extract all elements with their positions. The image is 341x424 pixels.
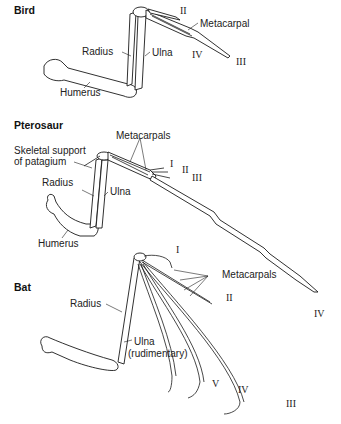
bird-metacarpal-label: Metacarpal [200,18,249,29]
bird-panel-title: Bird [14,4,35,16]
bat-digit-i-label: I [176,244,179,255]
bird-digit-iii-label: III [236,56,246,67]
pterosaur-metacarpals-label: Metacarpals [116,130,170,141]
bat-wing-skeleton [41,253,244,414]
pterosaur-digit-iii-label: III [192,172,202,183]
bat-digit-ii [142,260,212,304]
pterosaur-skeletal-support-label-line2: of patagium [14,156,66,167]
pterosaur-ulna-label: Ulna [110,186,131,197]
bat-digit-iv-label: IV [238,384,249,395]
bat-humerus [41,337,118,371]
pterosaur-skeletal-support-label-line1: Skeletal support [14,145,86,156]
bird-ulna-label: Ulna [152,47,173,58]
bat-panel-title: Bat [14,281,31,293]
bird-humerus-label: Humerus [60,87,101,98]
bird-radius-label: Radius [82,46,113,57]
bird-digit-ii-label: II [180,5,187,16]
pterosaur-digit-i-label: I [170,158,173,169]
pterosaur-radius-label: Radius [42,177,73,188]
pterosaur-digit-ii-label: II [182,164,189,175]
bat-digit-iii-label: III [286,398,296,409]
leader-lines [62,23,208,342]
bird-ulna [135,14,146,90]
bat-digit-ii-label: II [226,292,233,303]
pterosaur-humerus [46,194,98,236]
bat-ulna-label-line2: (rudimentary) [128,348,187,359]
pterosaur-digit-iv-label: IV [314,308,325,319]
bat-metacarpals-label: Metacarpals [222,269,276,280]
wing-skeleton-drawings [0,0,341,424]
bird-radius [127,12,136,86]
bat-ulna-label-line1: Ulna [134,336,155,347]
pterosaur-humerus-label: Humerus [38,238,79,249]
pterosaur-metacarpals [108,152,156,180]
bat-digit-v-label: V [212,378,219,389]
bird-digit-iv-label: IV [192,49,203,60]
bat-radius-label: Radius [70,298,101,309]
bat-digit-v [138,264,176,392]
pterosaur-panel-title: Pterosaur [14,119,63,131]
